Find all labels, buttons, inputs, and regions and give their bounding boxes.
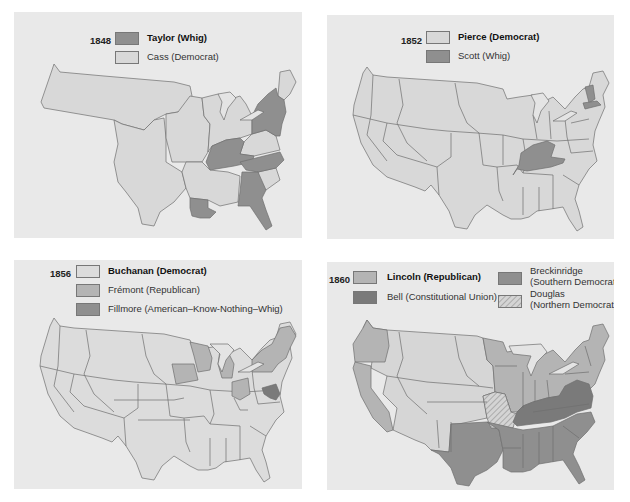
us-map-1860 — [327, 262, 614, 490]
us-map-1852 — [327, 15, 614, 239]
map-panel-1852: 1852 Pierce (Democrat) Scott (Whig) — [327, 15, 614, 239]
us-map-1848 — [14, 12, 302, 238]
us-map-1856 — [14, 260, 302, 489]
map-panel-1848: 1848 Taylor (Whig) Cass (Democrat) — [14, 12, 302, 238]
map-panel-1856: 1856 Buchanan (Democrat) Frémont (Republ… — [14, 260, 302, 489]
map-panel-1860: 1860 Lincoln (Republican) Bell (Constitu… — [327, 262, 614, 490]
